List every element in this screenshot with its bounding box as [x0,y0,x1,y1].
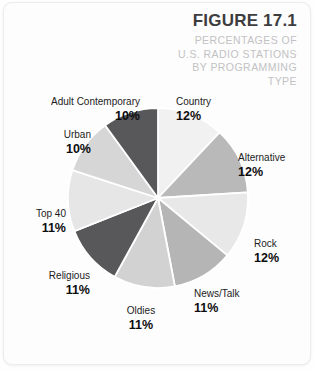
slice-label-news-talk: News/Talk 11% [194,288,252,315]
slice-label-oldies: Oldies 11% [119,305,163,332]
slice-label-value: 11% [8,221,66,235]
slice-label-name: Alternative [238,152,285,163]
slice-label-value: 11% [194,301,252,315]
slice-label-name: Urban [64,129,91,140]
slice-label-value: 11% [26,283,90,297]
subtitle-line-1: PERCENTAGES OF [119,34,297,48]
slice-label-name: Oldies [127,305,155,316]
slice-label-adult-contemporary: Adult Contemporary 10% [26,96,140,123]
slice-label-name: News/Talk [194,288,240,299]
slice-label-urban: Urban 10% [33,129,91,156]
slice-label-country: Country 12% [176,96,224,123]
slice-label-religious: Religious 11% [26,270,90,297]
subtitle-line-2: U.S. RADIO STATIONS [119,48,297,62]
pie-chart [66,106,250,290]
slice-label-name: Top 40 [36,208,66,219]
slice-label-value: 10% [33,142,91,156]
title-block: FIGURE 17.1 PERCENTAGES OF U.S. RADIO ST… [119,11,297,88]
slice-label-name: Country [176,96,211,107]
figure-title: FIGURE 17.1 [119,11,297,30]
slice-label-value: 10% [26,109,140,123]
slice-label-alternative: Alternative 12% [238,152,300,179]
slice-label-value: 12% [238,165,300,179]
slice-label-name: Adult Contemporary [51,96,140,107]
slice-label-rock: Rock 12% [254,238,298,265]
figure-subtitle: PERCENTAGES OF U.S. RADIO STATIONS BY PR… [119,34,297,88]
slice-label-name: Rock [254,238,277,249]
subtitle-line-4: TYPE [119,75,297,89]
slice-label-name: Religious [49,270,90,281]
slice-label-value: 12% [254,251,298,265]
subtitle-line-3: BY PROGRAMMING [119,61,297,75]
pie-chart-svg [66,106,250,290]
pie-slice-group [68,108,248,288]
slice-label-value: 12% [176,109,224,123]
figure-card: FIGURE 17.1 PERCENTAGES OF U.S. RADIO ST… [0,0,315,370]
slice-label-top-40: Top 40 11% [8,208,66,235]
slice-label-value: 11% [119,318,163,332]
